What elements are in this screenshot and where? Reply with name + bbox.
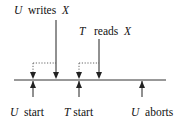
action: start <box>24 106 44 118</box>
action: reads <box>94 25 118 37</box>
u-writes-arrowhead <box>53 72 59 79</box>
action: start <box>73 106 93 118</box>
actor: T <box>64 106 70 118</box>
t-start-arrowhead-down <box>76 72 82 79</box>
t-reads-arrowhead <box>96 72 102 79</box>
label-t-reads-x: T reads X <box>79 26 131 38</box>
timeline-diagram: U writes X T reads X U start T start U a… <box>0 0 180 127</box>
t-start-arrowhead-up <box>76 81 82 88</box>
action: writes <box>28 4 56 16</box>
actor: U <box>14 4 22 16</box>
object: X <box>124 25 131 37</box>
label-u-aborts: U aborts <box>131 107 173 119</box>
object: X <box>62 4 69 16</box>
action: aborts <box>145 106 173 118</box>
actor: U <box>131 106 139 118</box>
actor: U <box>10 106 18 118</box>
u-start-arrowhead-up <box>30 81 36 88</box>
u-aborts-arrowhead-up <box>139 81 145 88</box>
label-t-start: T start <box>64 107 93 119</box>
label-u-writes-x: U writes X <box>14 5 69 17</box>
label-u-start: U start <box>10 107 44 119</box>
u-start-arrowhead-down <box>30 72 36 79</box>
actor: T <box>79 25 85 37</box>
